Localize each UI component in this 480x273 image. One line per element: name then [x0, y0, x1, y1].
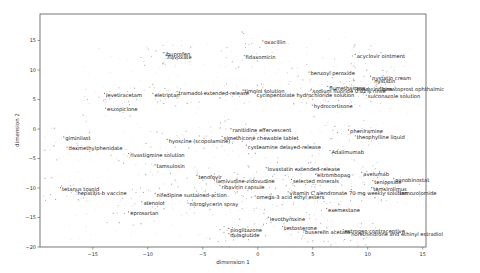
data-point	[368, 144, 369, 145]
data-point	[117, 207, 118, 208]
annotated-point	[303, 230, 304, 231]
data-point	[293, 203, 294, 204]
data-point	[357, 225, 358, 226]
data-point	[247, 190, 248, 191]
data-point	[235, 68, 236, 69]
data-point	[300, 88, 301, 89]
data-point	[234, 191, 235, 192]
annotated-point	[176, 91, 177, 92]
data-point	[132, 189, 133, 190]
data-point	[154, 51, 155, 52]
data-point	[220, 229, 221, 230]
data-point	[236, 56, 237, 57]
point-label: bimatoprost ophthalmic	[382, 86, 444, 93]
data-point	[314, 200, 315, 201]
data-point	[86, 213, 87, 214]
data-point	[89, 132, 90, 133]
data-point	[148, 49, 149, 50]
data-point	[107, 169, 108, 170]
data-point	[149, 87, 150, 88]
data-point	[124, 131, 125, 132]
data-point	[195, 112, 196, 113]
annotated-point	[255, 93, 256, 94]
data-point	[311, 132, 312, 133]
annotated-point	[372, 180, 373, 181]
data-point	[354, 80, 355, 81]
data-point	[177, 182, 178, 183]
data-point	[224, 85, 225, 86]
x-tick-label: −10	[142, 251, 153, 257]
data-point	[248, 239, 249, 240]
data-point	[158, 101, 159, 102]
data-point	[397, 202, 398, 203]
data-point	[304, 238, 305, 239]
data-point	[358, 223, 359, 224]
data-point	[337, 142, 338, 143]
annotated-point	[63, 136, 64, 137]
data-point	[265, 176, 266, 177]
point-label: avelumab	[363, 171, 389, 177]
data-point	[217, 171, 218, 172]
data-point	[340, 183, 341, 184]
data-point	[323, 69, 324, 70]
data-point	[266, 218, 267, 219]
data-point	[347, 180, 348, 181]
data-point	[348, 126, 349, 127]
data-point	[407, 114, 408, 115]
data-point	[272, 52, 273, 53]
data-point	[355, 44, 356, 45]
data-point	[97, 178, 98, 179]
data-point	[324, 201, 325, 202]
data-point	[128, 60, 129, 61]
data-point	[306, 47, 307, 48]
data-point	[226, 47, 227, 48]
data-point	[275, 73, 276, 74]
data-point	[328, 39, 329, 40]
data-point	[145, 173, 146, 174]
data-point	[225, 128, 226, 129]
data-point	[177, 87, 178, 88]
x-tick-label: 0	[256, 251, 259, 257]
point-label: alendronate 70 mg weekly solution	[316, 190, 408, 197]
data-point	[265, 157, 266, 158]
annotated-point	[141, 201, 142, 202]
x-tick-label: −15	[88, 251, 99, 257]
point-label: atenolol	[143, 200, 164, 206]
annotated-point	[128, 211, 129, 212]
point-label: lovastatin extended-release	[268, 166, 340, 172]
data-point	[350, 200, 351, 201]
data-point	[307, 241, 308, 242]
data-point	[124, 118, 125, 119]
data-point	[302, 205, 303, 206]
data-point	[249, 102, 250, 103]
annotated-point	[308, 71, 309, 72]
data-point	[162, 173, 163, 174]
data-point	[178, 75, 179, 76]
data-point	[45, 200, 46, 201]
data-point	[227, 230, 228, 231]
data-point	[248, 165, 249, 166]
data-point	[330, 138, 331, 139]
data-point	[228, 196, 229, 197]
data-point	[232, 151, 233, 152]
data-point	[297, 67, 298, 68]
data-point	[386, 71, 387, 72]
data-point	[315, 162, 316, 163]
annotated-point	[75, 191, 76, 192]
data-point	[290, 188, 291, 189]
data-point	[224, 121, 225, 122]
data-point	[351, 81, 352, 82]
data-point	[408, 102, 409, 103]
data-point	[145, 163, 146, 164]
data-point	[301, 102, 302, 103]
data-point	[162, 63, 163, 64]
data-point	[116, 158, 117, 159]
data-point	[299, 111, 300, 112]
data-point	[319, 150, 320, 151]
data-point	[293, 104, 294, 105]
data-point	[319, 85, 320, 86]
data-point	[246, 198, 247, 199]
data-point	[345, 125, 346, 126]
annotated-point	[329, 150, 330, 151]
data-point	[183, 135, 184, 136]
